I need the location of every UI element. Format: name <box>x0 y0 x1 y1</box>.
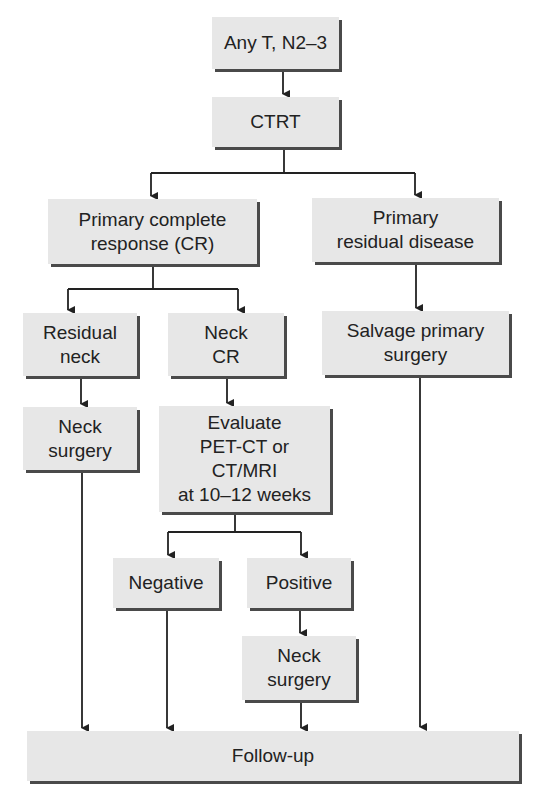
node-salvage-primary-surgery: Salvage primary surgery <box>322 311 509 375</box>
node-follow-up: Follow-up <box>27 731 519 781</box>
node-residual-neck: Residual neck <box>23 313 137 376</box>
node-any-t-n2-3: Any T, N2–3 <box>212 17 339 69</box>
node-neck-surgery-positive: Neck surgery <box>242 636 356 700</box>
treatment-flowchart: Any T, N2–3 CTRT Primary complete respon… <box>0 0 540 805</box>
node-ctrt: CTRT <box>212 97 339 147</box>
node-positive: Positive <box>247 558 351 608</box>
node-neck-surgery-residual: Neck surgery <box>23 407 137 470</box>
node-negative: Negative <box>113 558 219 608</box>
node-primary-complete-response: Primary complete response (CR) <box>48 199 257 264</box>
node-primary-residual-disease: Primary residual disease <box>312 198 499 262</box>
node-neck-cr: Neck CR <box>168 313 284 376</box>
node-evaluate-imaging: Evaluate PET-CT or CT/MRI at 10–12 weeks <box>159 406 330 512</box>
